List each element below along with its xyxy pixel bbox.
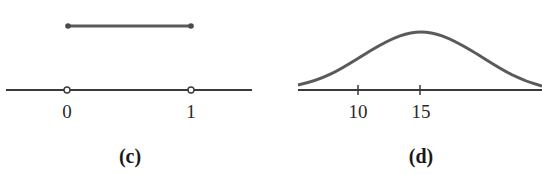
normal-curve [298, 32, 542, 86]
panel-c: 0 1 (c) [6, 23, 252, 168]
figure-canvas: 0 1 (c) 10 15 (d) [0, 0, 542, 174]
tick-label-15: 15 [412, 101, 431, 122]
panel-label-c: (c) [119, 145, 141, 168]
tick-label-1: 1 [186, 101, 196, 122]
closed-endpoint-right [188, 23, 194, 29]
closed-endpoint-left [65, 23, 71, 29]
tick-label-10: 10 [349, 101, 368, 122]
panel-label-d: (d) [409, 145, 433, 168]
open-point-1 [188, 87, 194, 93]
panel-d: 10 15 (d) [298, 32, 542, 168]
tick-label-0: 0 [62, 101, 72, 122]
open-point-0 [64, 87, 70, 93]
